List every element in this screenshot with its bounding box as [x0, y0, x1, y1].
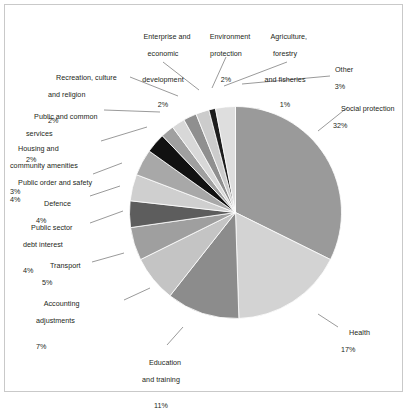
leader-line-defence: [90, 186, 120, 196]
label-other: Other 3%: [322, 57, 358, 109]
label-text-2: forestry: [256, 50, 314, 59]
label-education-and-training: Education and training 11%: [130, 350, 192, 412]
label-environment-protection: Environment protection 2%: [199, 24, 253, 101]
leader-line-public-sector-debt-interest: [90, 211, 123, 223]
label-text-2: economic: [132, 50, 194, 59]
label-pct: 2%: [199, 76, 253, 85]
label-pct: 11%: [130, 402, 192, 411]
label-pct: 2%: [48, 117, 126, 126]
pie-slice-group: [129, 107, 341, 319]
label-pct: 2%: [26, 156, 101, 165]
label-text-2: adjustments: [36, 317, 102, 326]
label-health: Health 17%: [341, 320, 370, 372]
label-pct: 17%: [341, 346, 370, 355]
label-pct: 1%: [256, 101, 314, 110]
label-text: Recreation, culture: [56, 73, 117, 82]
label-enterprise-and-economic-development: Enterprise and economic development 2%: [132, 24, 194, 127]
label-pct: 3%: [10, 188, 90, 197]
label-text-3: development: [132, 76, 194, 85]
label-text: Health: [349, 328, 370, 337]
label-text-2: protection: [199, 50, 253, 59]
label-text-2: and religion: [48, 91, 126, 100]
leader-line-health: [318, 314, 338, 327]
label-text-2: and training: [130, 376, 192, 385]
label-pct: 7%: [36, 343, 102, 352]
leader-line-transport: [92, 253, 124, 262]
label-recreation-culture-and-religion: Recreation, culture and religion 2%: [48, 65, 126, 142]
label-text: Agriculture,: [271, 32, 308, 41]
label-text: Education: [149, 358, 181, 367]
leader-line-accounting-adjustments: [124, 288, 150, 300]
label-agriculture-forestry-and-fisheries: Agriculture, forestry and fisheries 1%: [256, 24, 314, 127]
label-pct: 2%: [132, 101, 194, 110]
label-pct: 3%: [322, 83, 358, 92]
label-text: Enterprise and: [144, 32, 191, 41]
label-text: Other: [335, 65, 353, 74]
leader-line-education-and-training: [167, 327, 183, 345]
label-text: Environment: [210, 32, 251, 41]
label-pct: 32%: [333, 122, 395, 131]
label-pct: 4%: [23, 267, 86, 276]
label-text-3: and fisheries: [256, 76, 314, 85]
